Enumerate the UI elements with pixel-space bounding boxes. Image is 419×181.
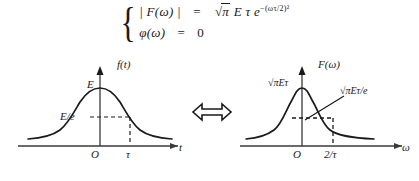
sqrt-symbol: π: [213, 3, 230, 20]
right-peak-label: √πEτ: [268, 77, 288, 88]
right-graph: F(ω) ω √πEτ √πEτ/e O 2/τ: [232, 58, 419, 178]
left-x-axis-label: t: [179, 141, 182, 153]
right-graph-svg: [232, 58, 419, 178]
equation-magnitude: | F(ω) | = π E τ e−(ωτ/2)²: [139, 3, 289, 20]
equivalence-arrow: [190, 101, 234, 123]
left-y-axis: [97, 66, 104, 146]
right-y-axis: [299, 66, 306, 146]
right-x-tick-label: 2/τ: [324, 148, 337, 160]
figure-root: { | F(ω) | = π E τ e−(ωτ/2)² φ(ω) = 0: [0, 0, 419, 181]
magnitude-rhs: E τ e: [234, 4, 260, 19]
right-y-axis-label: F(ω): [318, 58, 340, 70]
right-origin-label: O: [293, 148, 301, 160]
right-x-axis-label: ω: [402, 141, 410, 153]
equation-phase: φ(ω) = 0: [139, 25, 289, 41]
left-x-tick-label: τ: [126, 148, 130, 160]
sqrt-radicand: π: [221, 3, 230, 20]
left-peak-label: E: [87, 78, 94, 90]
left-level-label: E/e: [60, 110, 75, 122]
magnitude-lhs: | F(ω) |: [139, 4, 181, 19]
left-brace: {: [121, 2, 136, 42]
right-annotation-label: √πEτ/e: [340, 85, 367, 96]
left-y-axis-label: f(t): [117, 58, 130, 70]
phase-lhs: φ(ω): [139, 25, 165, 40]
magnitude-equals: =: [193, 4, 201, 19]
phase-equals: =: [178, 25, 186, 40]
phase-rhs: 0: [197, 25, 204, 40]
magnitude-exponent: −(ωτ/2)²: [260, 4, 289, 13]
left-level-label-text: E/e: [60, 110, 75, 122]
equation-lines: | F(ω) | = π E τ e−(ωτ/2)² φ(ω) = 0: [139, 3, 289, 41]
double-arrow-icon: [190, 101, 234, 123]
left-graph-svg: [2, 58, 202, 178]
right-x-axis: [240, 143, 402, 149]
left-origin-label: O: [91, 148, 99, 160]
left-graph: f(t) t E E/e O τ: [2, 58, 202, 178]
equation-system: { | F(ω) | = π E τ e−(ωτ/2)² φ(ω) = 0: [118, 2, 289, 42]
